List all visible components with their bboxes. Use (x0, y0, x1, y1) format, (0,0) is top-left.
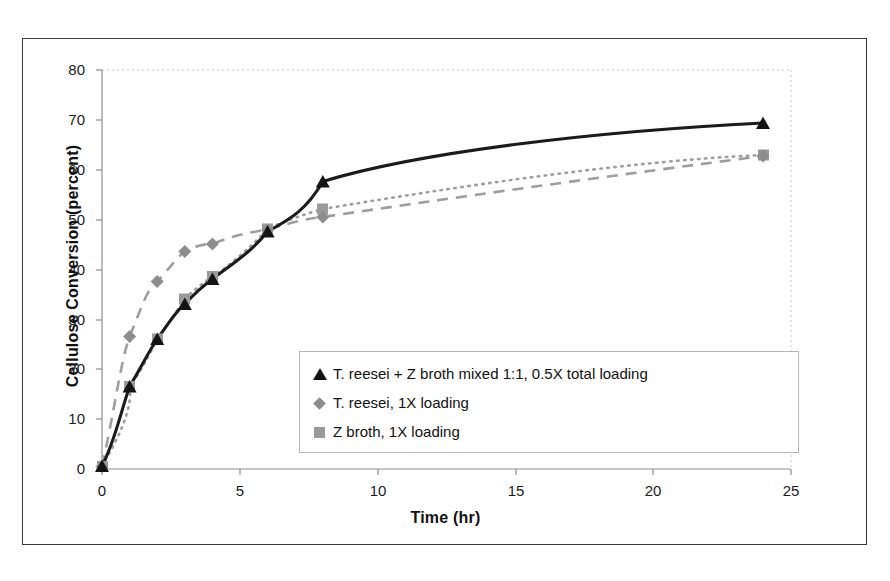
legend-item-t-reesei: T. reesei, 1X loading (310, 388, 798, 417)
y-axis-title: Cellulose Conversion (percent) (64, 56, 82, 476)
x-tick-label-0: 0 (82, 482, 122, 499)
y-axis-ticks (96, 70, 102, 469)
chart-legend: T. reesei + Z broth mixed 1:1, 0.5X tota… (299, 351, 799, 453)
x-tick-label-10: 10 (358, 482, 398, 499)
legend-label-z-broth: Z broth, 1X loading (333, 423, 460, 440)
legend-item-mixed: T. reesei + Z broth mixed 1:1, 0.5X tota… (310, 359, 798, 388)
diamond-marker-icon (310, 394, 330, 412)
x-tick-label-15: 15 (496, 482, 536, 499)
x-axis-title: Time (hr) (23, 509, 868, 527)
x-tick-label-20: 20 (633, 482, 673, 499)
legend-item-z-broth: Z broth, 1X loading (310, 417, 798, 446)
legend-label-mixed: T. reesei + Z broth mixed 1:1, 0.5X tota… (333, 365, 648, 382)
x-tick-label-5: 5 (220, 482, 260, 499)
x-tick-label-25: 25 (771, 482, 811, 499)
chart-plot-area (23, 39, 868, 546)
legend-label-t-reesei: T. reesei, 1X loading (333, 394, 469, 411)
x-axis-ticks (102, 469, 791, 475)
triangle-marker-icon (310, 365, 330, 383)
square-marker-icon (310, 423, 330, 441)
figure-frame: 80 70 60 50 40 30 20 10 0 0 5 10 15 20 2… (22, 38, 867, 545)
